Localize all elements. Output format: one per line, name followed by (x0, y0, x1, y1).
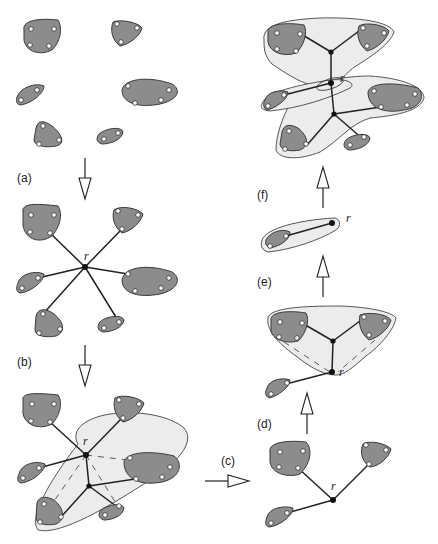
panel-label-d: (d) (257, 417, 272, 431)
panel-final-tree: r (261, 18, 424, 158)
arrow-up-e: (e) (257, 256, 329, 297)
panel-f-tree: r (261, 211, 351, 252)
root-label: r (84, 249, 89, 263)
panel-c: r (18, 394, 188, 531)
arrow-up-d: (d) (257, 393, 313, 434)
panel-b: r (b) (17, 204, 178, 369)
arrow-down-b-c (79, 345, 91, 386)
panel-a: (a) (16, 19, 177, 185)
root-label: r (83, 434, 88, 448)
panel-label-b: (b) (17, 355, 32, 369)
panel-label-f: (f) (257, 188, 268, 202)
arrow-up-f: (f) (257, 167, 329, 208)
diagram-canvas: (a) r (b) (0, 0, 438, 544)
panel-d-tree: r (266, 441, 391, 527)
panel-e-tree: r (266, 306, 396, 398)
arrow-down-a-b (79, 158, 91, 199)
root-label: r (339, 365, 344, 379)
root-label: r (346, 211, 351, 225)
root-label: r (340, 71, 345, 85)
panel-label-e: (e) (257, 275, 272, 289)
root-label: r (331, 479, 336, 493)
arrow-right-c-d: (c) (205, 454, 249, 487)
cluster (24, 19, 61, 52)
panel-label-c: (c) (221, 454, 235, 468)
panel-label-a: (a) (17, 171, 32, 185)
